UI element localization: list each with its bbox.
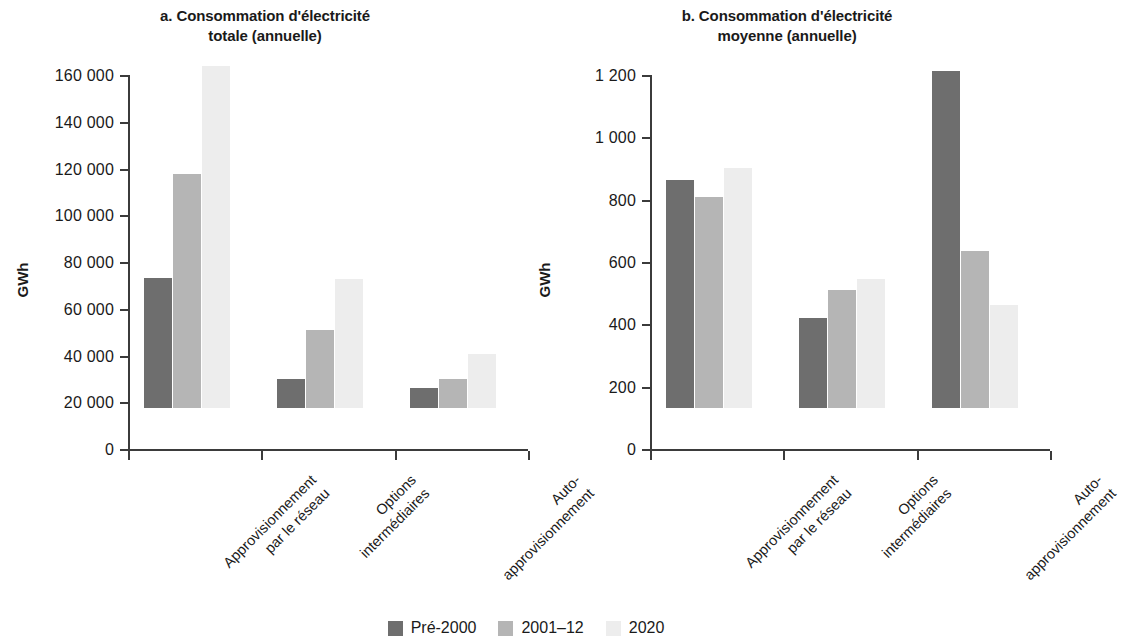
y-axis-tick-label: 200	[522, 379, 636, 397]
bar	[468, 354, 496, 408]
bar	[961, 251, 989, 408]
y-axis-tick	[642, 75, 650, 77]
panel-b-plot-area: 1 2001 0008006004002000GWhApprovisionnem…	[522, 0, 1052, 600]
x-axis-category-label: Approvisionnementpar le réseau	[741, 471, 855, 585]
y-axis-tick	[642, 324, 650, 326]
bar	[144, 278, 172, 408]
y-axis-tick-label: 140 000	[0, 114, 114, 132]
y-axis-tick-label: 40 000	[0, 348, 114, 366]
y-axis-tick-label: 0	[522, 441, 636, 459]
bar	[666, 180, 694, 408]
chart-panel-b: b. Consommation d'électricité moyenne (a…	[522, 0, 1052, 600]
y-axis-tick	[642, 387, 650, 389]
x-axis-category-label: Approvisionnementpar le réseau	[219, 471, 333, 585]
y-axis-tick	[120, 449, 128, 451]
bar	[828, 290, 856, 408]
bar	[306, 330, 334, 408]
y-axis-tick-label: 160 000	[0, 67, 114, 85]
legend-item: 2020	[606, 619, 665, 637]
y-axis-tick	[120, 75, 128, 77]
bar	[335, 279, 363, 408]
y-axis-tick	[642, 262, 650, 264]
legend-item: Pré-2000	[388, 619, 477, 637]
bar	[410, 388, 438, 408]
bar	[439, 379, 467, 408]
x-axis-tick	[261, 451, 263, 460]
y-axis-tick	[120, 122, 128, 124]
y-axis-tick	[120, 356, 128, 358]
y-axis-tick-label: 800	[522, 192, 636, 210]
y-axis-tick	[120, 402, 128, 404]
bar	[173, 174, 201, 408]
x-axis-line	[128, 449, 528, 451]
y-axis-tick-label: 120 000	[0, 161, 114, 179]
y-axis-tick	[642, 200, 650, 202]
x-axis-category-label: Auto-approvisionnement	[1007, 471, 1120, 584]
chart-panel-a: a. Consommation d'électricité totale (an…	[0, 0, 530, 600]
y-axis-tick	[120, 262, 128, 264]
y-axis-title: GWh	[536, 258, 553, 298]
bar	[695, 197, 723, 408]
y-axis-tick	[642, 449, 650, 451]
y-axis-line	[650, 75, 652, 451]
y-axis-title: GWh	[14, 258, 31, 298]
panel-a-plot-area: 160 000140 000120 000100 00080 00060 000…	[0, 0, 530, 600]
y-axis-tick	[120, 309, 128, 311]
x-axis-tick	[917, 451, 919, 460]
y-axis-tick-label: 1 200	[522, 67, 636, 85]
x-axis-line	[650, 449, 1050, 451]
bar	[277, 379, 305, 408]
y-axis-tick-label: 0	[0, 441, 114, 459]
legend-label: Pré-2000	[411, 619, 477, 637]
x-axis-tick	[395, 451, 397, 460]
legend-swatch-pre-2000	[388, 621, 403, 636]
legend-swatch-2020	[606, 621, 621, 636]
y-axis-tick-label: 20 000	[0, 394, 114, 412]
y-axis-tick	[120, 169, 128, 171]
y-axis-tick-label: 1 000	[522, 129, 636, 147]
x-axis-tick	[650, 451, 652, 460]
y-axis-tick-label: 60 000	[0, 301, 114, 319]
bar	[932, 71, 960, 408]
bar	[799, 318, 827, 408]
legend-item: 2001–12	[498, 619, 583, 637]
x-axis-tick	[1050, 451, 1052, 460]
y-axis-tick	[642, 137, 650, 139]
legend-swatch-2001-12	[498, 621, 513, 636]
legend-label: 2020	[629, 619, 665, 637]
bar	[857, 279, 885, 408]
x-axis-tick	[783, 451, 785, 460]
x-axis-category-label: Optionsintermédiaires	[865, 471, 956, 562]
bar	[724, 168, 752, 408]
chart-legend: Pré-20002001–122020	[0, 619, 1052, 637]
bar	[990, 305, 1018, 408]
y-axis-line	[128, 75, 130, 451]
bar	[202, 66, 230, 408]
y-axis-tick-label: 100 000	[0, 207, 114, 225]
y-axis-tick	[120, 215, 128, 217]
x-axis-tick	[128, 451, 130, 460]
x-axis-category-label: Optionsintermédiaires	[343, 471, 434, 562]
y-axis-tick-label: 400	[522, 316, 636, 334]
legend-label: 2001–12	[521, 619, 583, 637]
